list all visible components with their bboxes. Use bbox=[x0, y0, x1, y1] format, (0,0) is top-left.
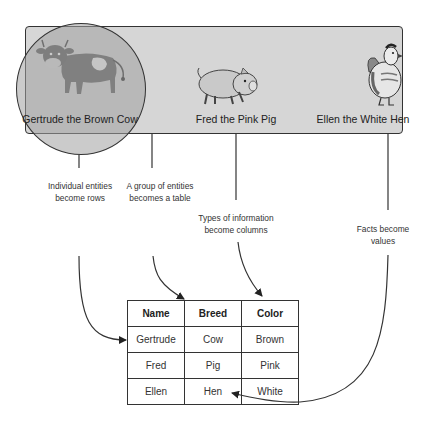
cell-color: White bbox=[242, 379, 299, 405]
table-row: Ellen Hen White bbox=[128, 379, 299, 405]
header-breed: Breed bbox=[185, 301, 242, 327]
table-row: Gertrude Cow Brown bbox=[128, 327, 299, 353]
note-table: A group of entities becomes a table bbox=[127, 180, 194, 204]
header-color: Color bbox=[242, 301, 299, 327]
cell-name: Fred bbox=[128, 353, 185, 379]
table-header-row: Name Breed Color bbox=[128, 301, 299, 327]
pig-label: Fred the Pink Pig bbox=[196, 113, 277, 125]
hen-icon bbox=[361, 42, 409, 108]
cell-color: Brown bbox=[242, 327, 299, 353]
cell-name: Ellen bbox=[128, 379, 185, 405]
cow-label: Gertrude the Brown Cow bbox=[22, 113, 138, 125]
note-table-line1: A group of entities bbox=[127, 180, 194, 192]
cell-breed: Cow bbox=[185, 327, 242, 353]
note-rows: Individual entities become rows bbox=[48, 180, 112, 204]
animals-table: Name Breed Color Gertrude Cow Brown Fred… bbox=[127, 300, 299, 405]
hen-label: Ellen the White Hen bbox=[317, 113, 410, 125]
note-table-line2: becomes a table bbox=[127, 192, 194, 204]
cell-breed: Hen bbox=[185, 379, 242, 405]
pig-icon bbox=[193, 64, 263, 106]
highlight-circle bbox=[16, 23, 146, 155]
note-values: Facts become values bbox=[357, 223, 410, 247]
note-rows-line1: Individual entities bbox=[48, 180, 112, 192]
note-values-line1: Facts become bbox=[357, 223, 410, 235]
note-columns: Types of information become columns bbox=[198, 212, 273, 236]
note-columns-line2: become columns bbox=[198, 224, 273, 236]
cell-breed: Pig bbox=[185, 353, 242, 379]
table-row: Fred Pig Pink bbox=[128, 353, 299, 379]
cell-color: Pink bbox=[242, 353, 299, 379]
cell-name: Gertrude bbox=[128, 327, 185, 353]
header-name: Name bbox=[128, 301, 185, 327]
note-values-line2: values bbox=[357, 235, 410, 247]
note-columns-line1: Types of information bbox=[198, 212, 273, 224]
note-rows-line2: become rows bbox=[48, 192, 112, 204]
